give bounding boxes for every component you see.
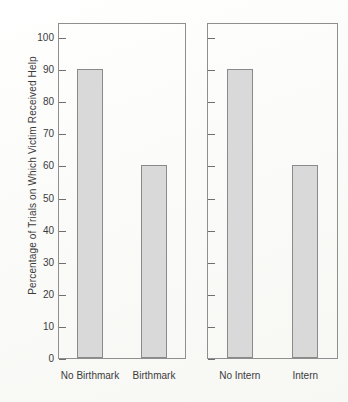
y-axis-tick [208, 199, 215, 200]
y-axis-tick [208, 231, 215, 232]
y-axis-tick [208, 134, 215, 135]
y-axis-tick: 90 [59, 70, 66, 71]
y-axis-tick [208, 359, 215, 360]
y-axis-tick [208, 327, 215, 328]
y-axis-tick-label: 40 [43, 225, 54, 236]
y-axis-tick-label: 70 [43, 128, 54, 139]
y-axis-tick: 0 [59, 359, 66, 360]
y-axis-tick-label: 10 [43, 321, 54, 332]
y-axis-tick-label: 90 [43, 64, 54, 75]
y-axis-tick [208, 263, 215, 264]
y-axis-title: Percentage of Trials on Which Victim Rec… [27, 26, 38, 326]
y-axis-tick [208, 166, 215, 167]
y-axis-tick-label: 20 [43, 289, 54, 300]
y-axis-tick-label: 100 [37, 32, 54, 43]
y-axis-tick: 70 [59, 134, 66, 135]
y-axis-tick [208, 295, 215, 296]
y-axis-tick: 80 [59, 102, 66, 103]
bar [77, 69, 103, 358]
y-axis-tick: 20 [59, 295, 66, 296]
bar-chart-figure: Percentage of Trials on Which Victim Rec… [0, 0, 348, 402]
x-axis-category-label: No Birthmark [61, 370, 119, 381]
y-axis-tick: 10 [59, 327, 66, 328]
y-axis-tick: 40 [59, 231, 66, 232]
y-axis-tick: 30 [59, 263, 66, 264]
y-axis-tick: 100 [59, 38, 66, 39]
y-axis-tick [208, 38, 215, 39]
y-axis-tick: 60 [59, 166, 66, 167]
bar [227, 69, 253, 358]
y-axis-tick-label: 50 [43, 193, 54, 204]
y-axis-tick-label: 30 [43, 257, 54, 268]
y-axis-tick-label: 60 [43, 160, 54, 171]
bar [141, 165, 167, 358]
x-axis-category-label: Intern [292, 370, 318, 381]
x-axis-category-label: Birthmark [133, 370, 176, 381]
bar [292, 165, 318, 358]
y-axis-tick [208, 70, 215, 71]
x-axis-category-label: No Intern [219, 370, 260, 381]
y-axis-tick [208, 102, 215, 103]
y-axis-tick-label: 0 [48, 353, 54, 364]
y-axis-tick: 50 [59, 199, 66, 200]
y-axis-tick-label: 80 [43, 96, 54, 107]
